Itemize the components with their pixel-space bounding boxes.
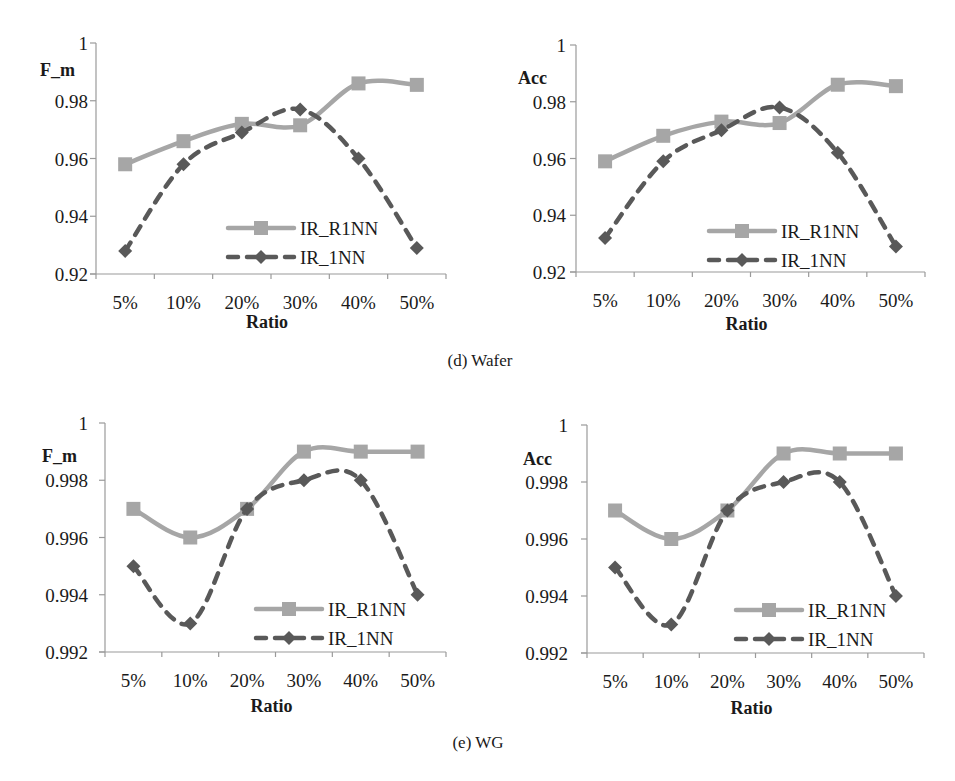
legend-diamond-icon xyxy=(282,631,296,645)
legend-label: IR_R1NN xyxy=(781,221,859,242)
y-tick-label: 1 xyxy=(79,413,89,434)
legend-label: IR_R1NN xyxy=(328,599,406,620)
y-axis-title: Acc xyxy=(518,68,547,88)
diamond-marker xyxy=(293,102,307,116)
legend: IR_R1NNIR_1NN xyxy=(736,600,886,650)
square-marker xyxy=(773,116,787,130)
x-tick-label: 30% xyxy=(287,670,322,691)
square-marker xyxy=(656,129,670,143)
series-ir-1nn xyxy=(608,472,903,631)
diamond-marker xyxy=(240,502,254,516)
legend-square-icon xyxy=(735,224,749,238)
square-marker xyxy=(177,134,191,148)
x-tick-label: 10% xyxy=(654,671,689,692)
diamond-marker xyxy=(297,473,311,487)
legend-label: IR_1NN xyxy=(300,247,366,268)
y-tick-label: 0.92 xyxy=(533,262,566,283)
diamond-marker xyxy=(889,239,903,253)
x-tick-label: 5% xyxy=(121,670,147,691)
legend-diamond-icon xyxy=(762,632,776,646)
diamond-marker xyxy=(411,588,425,602)
series-ir-r1nn xyxy=(118,76,424,171)
x-tick-label: 50% xyxy=(400,670,435,691)
square-marker xyxy=(833,447,847,461)
series-ir-r1nn xyxy=(126,445,424,545)
x-tick-label: 10% xyxy=(646,290,681,311)
x-tick-label: 50% xyxy=(879,671,914,692)
square-marker xyxy=(352,76,366,90)
square-marker xyxy=(714,115,728,129)
x-tick-label: 20% xyxy=(224,292,259,313)
y-tick-label: 0.94 xyxy=(533,205,567,226)
square-marker xyxy=(598,154,612,168)
y-tick-label: 0.992 xyxy=(525,643,568,664)
square-marker xyxy=(183,531,197,545)
legend-square-icon xyxy=(762,603,776,617)
x-tick-label: 5% xyxy=(113,292,139,313)
square-marker xyxy=(720,504,734,518)
y-axis-title: Acc xyxy=(523,449,552,469)
x-axis-title: Ratio xyxy=(246,312,288,332)
legend-label: IR_R1NN xyxy=(300,218,378,239)
legend-diamond-icon xyxy=(735,253,749,267)
square-marker xyxy=(777,447,791,461)
square-marker xyxy=(126,502,140,516)
caption-wg: (e) WG xyxy=(378,733,578,753)
square-marker xyxy=(240,502,254,516)
y-tick-label: 1 xyxy=(79,33,89,54)
y-tick-label: 0.994 xyxy=(45,585,88,606)
diamond-marker xyxy=(598,231,612,245)
diamond-marker xyxy=(183,616,197,630)
y-axis-title: F_m xyxy=(40,60,75,80)
caption-wafer: (d) Wafer xyxy=(380,351,580,371)
square-marker xyxy=(410,78,424,92)
x-tick-label: 40% xyxy=(343,670,378,691)
y-tick-label: 0.996 xyxy=(525,529,568,550)
square-marker xyxy=(411,445,425,459)
wafer-fm-chart: 0.920.940.960.9815%10%20%30%40%50%RatioF… xyxy=(0,0,480,340)
wafer-fm-plot: 0.920.940.960.9815%10%20%30%40%50%RatioF… xyxy=(0,0,480,340)
series-ir-1nn xyxy=(598,100,903,253)
legend-square-icon xyxy=(282,602,296,616)
x-tick-label: 5% xyxy=(592,290,618,311)
legend: IR_R1NNIR_1NN xyxy=(228,218,378,268)
legend-diamond-icon xyxy=(254,250,268,264)
x-tick-label: 30% xyxy=(766,671,801,692)
x-tick-label: 40% xyxy=(822,671,857,692)
diamond-marker xyxy=(777,475,791,489)
square-marker xyxy=(118,157,132,171)
diamond-marker xyxy=(720,504,734,518)
x-tick-label: 20% xyxy=(704,290,739,311)
diamond-marker xyxy=(608,561,622,575)
diamond-marker xyxy=(833,475,847,489)
x-tick-label: 20% xyxy=(230,670,265,691)
diamond-marker xyxy=(354,473,368,487)
x-tick-label: 40% xyxy=(341,292,376,313)
x-tick-label: 10% xyxy=(173,670,208,691)
series-ir-r1nn xyxy=(598,78,903,169)
square-marker xyxy=(889,447,903,461)
square-marker xyxy=(354,445,368,459)
square-marker xyxy=(889,79,903,93)
x-tick-label: 30% xyxy=(762,290,797,311)
x-axis-title: Ratio xyxy=(731,698,773,718)
x-tick-label: 40% xyxy=(820,290,855,311)
y-tick-label: 0.98 xyxy=(55,91,88,112)
y-tick-label: 0.992 xyxy=(45,642,88,663)
y-tick-label: 0.96 xyxy=(55,149,88,170)
diamond-marker xyxy=(664,618,678,632)
square-marker xyxy=(831,78,845,92)
legend: IR_R1NNIR_1NN xyxy=(256,599,406,649)
legend-label: IR_1NN xyxy=(808,629,874,650)
x-tick-label: 50% xyxy=(399,292,434,313)
diamond-marker xyxy=(831,146,845,160)
y-tick-label: 0.996 xyxy=(45,528,88,549)
y-tick-label: 0.994 xyxy=(525,586,568,607)
legend-label: IR_R1NN xyxy=(808,600,886,621)
square-marker xyxy=(608,504,622,518)
x-tick-label: 5% xyxy=(602,671,628,692)
diamond-marker xyxy=(656,154,670,168)
legend-label: IR_1NN xyxy=(328,628,394,649)
y-tick-label: 1 xyxy=(557,35,567,56)
y-tick-label: 1 xyxy=(559,415,569,436)
